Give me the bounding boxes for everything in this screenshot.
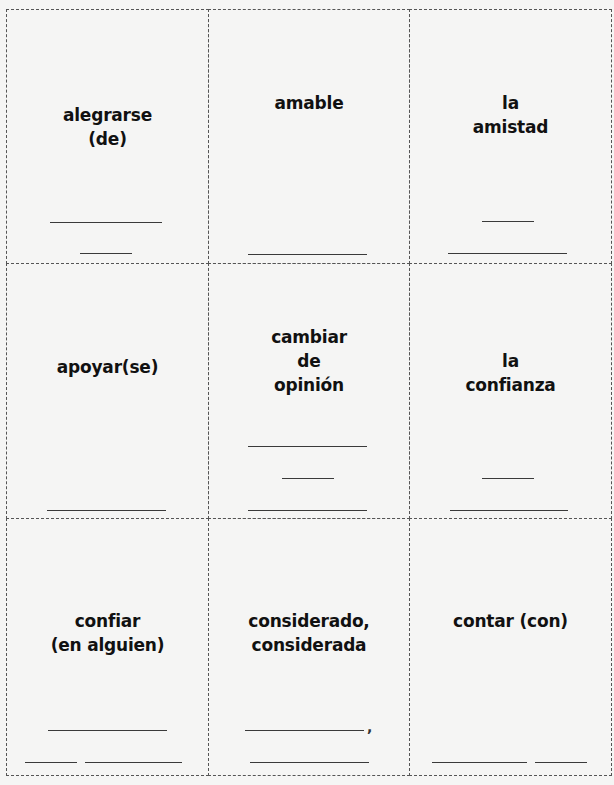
- answer-blank-line[interactable]: [245, 730, 364, 731]
- answer-blank-line[interactable]: [250, 762, 369, 763]
- answer-blank-line[interactable]: [248, 446, 367, 447]
- vocab-term: amable: [209, 91, 409, 115]
- vocab-term: la amistad: [410, 91, 611, 139]
- vocab-card: alegrarse (de): [6, 9, 209, 264]
- answer-blank-line[interactable]: [85, 762, 182, 763]
- vocab-card: confiar (en alguien): [6, 518, 209, 776]
- answer-blank-line[interactable]: [448, 253, 567, 254]
- vocab-term: apoyar(se): [7, 355, 208, 379]
- answer-blank-line[interactable]: [48, 730, 167, 731]
- answer-blank-line[interactable]: [50, 222, 162, 223]
- answer-blank-line[interactable]: [248, 510, 367, 511]
- answer-blank-line[interactable]: [535, 762, 587, 763]
- vocab-term: confiar (en alguien): [7, 609, 208, 657]
- vocab-card: cambiar de opinión: [208, 263, 410, 519]
- flashcard-sheet: alegrarse (de)amablela amistadapoyar(se)…: [0, 0, 614, 785]
- vocab-term: alegrarse (de): [7, 103, 208, 151]
- vocab-term: cambiar de opinión: [209, 325, 409, 397]
- flashcard-grid: alegrarse (de)amablela amistadapoyar(se)…: [6, 9, 611, 775]
- vocab-card: la amistad: [409, 9, 612, 264]
- vocab-card: contar (con): [409, 518, 612, 776]
- answer-blank-line[interactable]: [482, 478, 534, 479]
- answer-blank-line[interactable]: [432, 762, 527, 763]
- blank-separator-comma: ,: [367, 720, 372, 734]
- vocab-card: apoyar(se): [6, 263, 209, 519]
- vocab-card: la confianza: [409, 263, 612, 519]
- vocab-term: considerado, considerada: [209, 609, 409, 657]
- vocab-card: considerado, considerada: [208, 518, 410, 776]
- answer-blank-line[interactable]: [80, 253, 132, 254]
- vocab-term: la confianza: [410, 349, 611, 397]
- answer-blank-line[interactable]: [482, 221, 534, 222]
- answer-blank-line[interactable]: [450, 510, 568, 511]
- answer-blank-line[interactable]: [47, 510, 166, 511]
- answer-blank-line[interactable]: [25, 762, 77, 763]
- answer-blank-line[interactable]: [282, 478, 334, 479]
- vocab-term: contar (con): [410, 609, 611, 633]
- answer-blank-line[interactable]: [248, 254, 367, 255]
- vocab-card: amable: [208, 9, 410, 264]
